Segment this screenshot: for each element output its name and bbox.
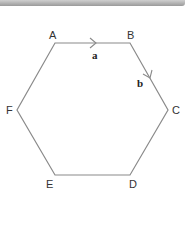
vertex-label-c: C bbox=[172, 104, 180, 116]
vertex-label-f: F bbox=[6, 104, 13, 116]
vector-label-a: a bbox=[92, 49, 98, 61]
vertex-label-e: E bbox=[46, 178, 53, 190]
hexagon-outline bbox=[17, 43, 168, 175]
hexagon-diagram: A B C D E F a b bbox=[0, 0, 189, 230]
vector-label-b: b bbox=[137, 77, 143, 89]
vertex-label-b: B bbox=[127, 29, 134, 41]
vertex-label-d: D bbox=[129, 178, 137, 190]
vertex-label-a: A bbox=[49, 29, 57, 41]
